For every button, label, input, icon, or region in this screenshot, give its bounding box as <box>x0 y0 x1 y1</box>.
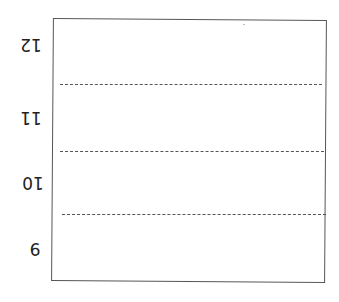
label-10: 10 <box>18 173 48 193</box>
dashed-divider-1 <box>60 84 322 85</box>
label-11: 11 <box>16 108 46 128</box>
label-9: 9 <box>20 239 50 259</box>
dashed-divider-3 <box>62 214 326 215</box>
scan-artifact <box>243 24 245 25</box>
label-12: 12 <box>16 35 46 55</box>
dashed-divider-2 <box>60 151 324 152</box>
